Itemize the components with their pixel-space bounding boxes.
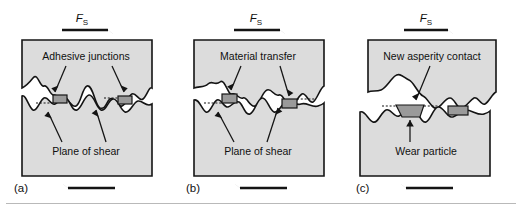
panel-b: FS Material transfer <box>174 0 348 213</box>
svg-text:FS: FS <box>76 12 88 27</box>
force-subscript-c: S <box>427 18 432 27</box>
panel-c: FS New asperity <box>348 0 522 213</box>
transferred-patch-right-c <box>448 106 468 115</box>
label-material-transfer-b: Material transfer <box>220 50 296 62</box>
force-subscript-a: S <box>83 18 88 27</box>
panel-a: FS Adh <box>0 0 174 213</box>
adhesive-wear-figure: FS Adh <box>0 0 522 213</box>
panel-label-b: (b) <box>186 182 200 194</box>
lower-body-c <box>360 107 490 176</box>
force-arrow-bottom-c <box>400 184 453 191</box>
force-arrow-top-c: FS <box>404 12 454 35</box>
force-arrow-top-a: FS <box>62 12 114 35</box>
lower-body-a <box>22 95 152 176</box>
force-subscript-b: S <box>257 18 262 27</box>
lower-body-b <box>194 98 324 176</box>
adhesive-junction-patch-left-a <box>53 95 67 103</box>
label-new-asperity-contact-c: New asperity contact <box>383 50 481 62</box>
force-arrow-bottom-b <box>234 184 287 191</box>
force-arrow-top-b: FS <box>234 12 286 35</box>
svg-text:FS: FS <box>250 12 262 27</box>
bottom-divider-rule <box>6 203 516 204</box>
label-plane-of-shear-a: Plane of shear <box>52 145 120 157</box>
panel-label-a: (a) <box>14 182 28 194</box>
adhesive-junction-patch-right-a <box>118 96 132 104</box>
force-arrow-bottom-a <box>62 184 115 191</box>
label-plane-of-shear-b: Plane of shear <box>224 145 292 157</box>
material-transfer-patch-right-b <box>282 99 297 108</box>
label-wear-particle-c: Wear particle <box>395 145 457 157</box>
material-transfer-patch-left-b <box>222 94 237 103</box>
svg-text:FS: FS <box>420 12 432 27</box>
panel-label-c: (c) <box>356 182 370 194</box>
label-adhesive-junctions-a: Adhesive junctions <box>42 50 130 62</box>
